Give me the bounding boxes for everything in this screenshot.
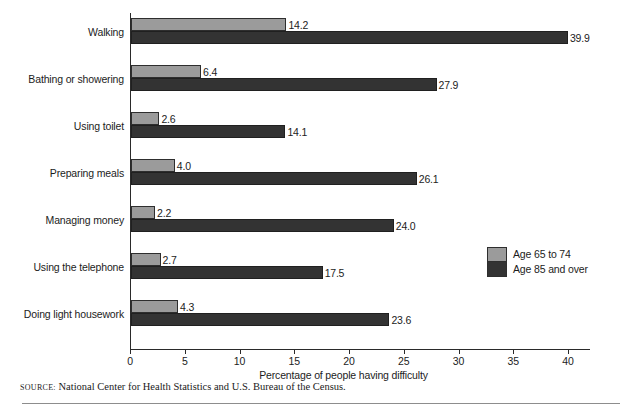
legend-label-age-65-to-74: Age 65 to 74 — [513, 248, 571, 260]
category-label: Using the telephone — [33, 261, 124, 273]
legend-label-age-85-and-over: Age 85 and over — [513, 263, 588, 275]
category-label: Bathing or showering — [28, 73, 124, 85]
bar-group: Bathing or showering6.427.9 — [130, 65, 630, 92]
legend-swatch-age-85-and-over — [488, 262, 506, 276]
bar-age-85-and-over: 23.6 — [131, 313, 389, 326]
bar-value-label: 14.2 — [288, 19, 308, 31]
x-axis-tick — [459, 349, 460, 354]
bar-age-85-and-over: 24.0 — [131, 219, 394, 232]
bar-group: Doing light housework4.323.6 — [130, 300, 630, 327]
bar-group: Using toilet2.614.1 — [130, 112, 630, 139]
bar-value-label: 26.1 — [419, 173, 439, 185]
x-axis-tick-label: 35 — [508, 355, 519, 367]
bar-age-85-and-over: 26.1 — [131, 172, 417, 185]
bar-value-label: 24.0 — [396, 220, 416, 232]
x-axis-tick — [513, 349, 514, 354]
x-axis-tick — [294, 349, 295, 354]
bar-age-65-to-74: 4.3 — [131, 300, 178, 313]
plot-area: Walking14.239.9Bathing or showering6.427… — [130, 14, 630, 349]
x-axis-tick — [130, 349, 131, 354]
bar-age-65-to-74: 6.4 — [131, 65, 201, 78]
x-axis-title: Percentage of people having difficulty — [0, 369, 641, 381]
bar-age-65-to-74: 2.7 — [131, 253, 161, 266]
bar-age-65-to-74: 2.2 — [131, 206, 155, 219]
bar-age-85-and-over: 27.9 — [131, 78, 437, 91]
bar-value-label: 4.0 — [177, 160, 191, 172]
bar-age-85-and-over: 14.1 — [131, 125, 285, 138]
bar-age-65-to-74: 14.2 — [131, 18, 286, 31]
category-label: Using toilet — [74, 120, 124, 132]
bar-value-label: 2.2 — [157, 207, 171, 219]
x-axis-tick — [349, 349, 350, 354]
bar-value-label: 27.9 — [439, 79, 459, 91]
x-axis-tick — [185, 349, 186, 354]
x-axis-tick-label: 30 — [453, 355, 464, 367]
bar-value-label: 39.9 — [570, 32, 590, 44]
bar-group: Preparing meals4.026.1 — [130, 159, 630, 186]
x-axis-tick-label: 5 — [182, 355, 188, 367]
bar-value-label: 2.6 — [161, 113, 175, 125]
category-label: Doing light housework — [24, 308, 124, 320]
x-axis-tick-label: 25 — [398, 355, 409, 367]
category-label: Walking — [88, 26, 124, 38]
bar-age-65-to-74: 2.6 — [131, 112, 159, 125]
source-text: National Center for Health Statistics an… — [59, 381, 346, 392]
x-axis-line — [130, 349, 590, 350]
x-axis-tick-label: 40 — [562, 355, 573, 367]
category-label: Managing money — [46, 214, 124, 226]
x-axis-tick-label: 20 — [343, 355, 354, 367]
bottom-divider — [22, 403, 620, 404]
category-label: Preparing meals — [50, 167, 124, 179]
x-axis-tick — [568, 349, 569, 354]
bar-group: Walking14.239.9 — [130, 18, 630, 45]
x-axis-tick — [240, 349, 241, 354]
source-note: Source: National Center for Health Stati… — [20, 381, 346, 392]
bar-age-65-to-74: 4.0 — [131, 159, 175, 172]
bar-value-label: 23.6 — [391, 314, 411, 326]
source-label: Source: — [20, 383, 56, 392]
bar-chart: Walking14.239.9Bathing or showering6.427… — [0, 0, 641, 413]
bar-value-label: 17.5 — [325, 267, 345, 279]
x-axis-tick-label: 10 — [234, 355, 245, 367]
bar-group: Managing money2.224.0 — [130, 206, 630, 233]
x-axis-tick — [404, 349, 405, 354]
legend-swatch-age-65-to-74 — [488, 248, 506, 262]
bar-value-label: 2.7 — [163, 254, 177, 266]
bar-value-label: 6.4 — [203, 66, 217, 78]
x-axis-tick-label: 15 — [289, 355, 300, 367]
bar-age-85-and-over: 17.5 — [131, 266, 323, 279]
bar-value-label: 4.3 — [180, 301, 194, 313]
x-axis-tick-label: 0 — [127, 355, 133, 367]
bar-age-85-and-over: 39.9 — [131, 31, 568, 44]
bar-value-label: 14.1 — [287, 126, 307, 138]
legend-swatches — [487, 247, 507, 277]
